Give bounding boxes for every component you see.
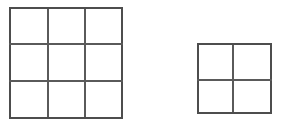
two-by-two-grid: [198, 44, 271, 113]
figure-canvas: [0, 0, 284, 124]
grid-figure-svg: [0, 0, 284, 124]
grid-cell: [48, 8, 85, 44]
grid-cell: [48, 81, 85, 118]
grid-cell: [85, 8, 122, 44]
grid-cell: [85, 44, 122, 81]
grid-cell: [233, 80, 271, 113]
grid-cell: [48, 44, 85, 81]
three-by-three-grid: [10, 8, 122, 118]
grid-cell: [10, 81, 48, 118]
grid-cell: [10, 8, 48, 44]
grid-cell: [10, 44, 48, 81]
grid-cell: [233, 44, 271, 80]
grid-cell: [198, 44, 233, 80]
grid-cell: [198, 80, 233, 113]
grid-cell: [85, 81, 122, 118]
